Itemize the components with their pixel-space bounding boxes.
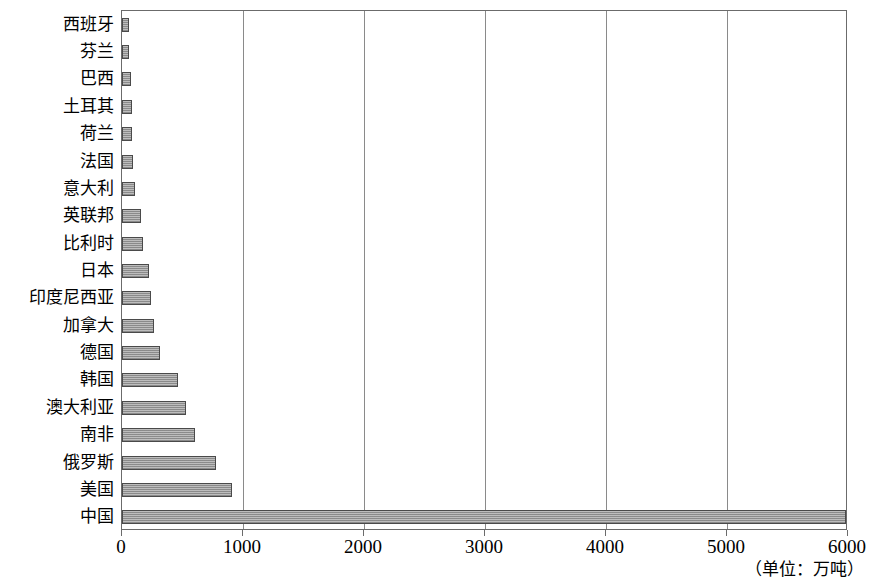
x-tick-label-2000: 2000 — [344, 536, 382, 558]
gridline-1000 — [243, 11, 244, 529]
bar-加拿大 — [122, 319, 154, 333]
category-label-南非: 南非 — [80, 426, 114, 443]
category-label-西班牙: 西班牙 — [63, 15, 114, 32]
x-tick-label-6000: 6000 — [828, 536, 866, 558]
gridline-3000 — [485, 11, 486, 529]
bar-芬兰 — [122, 45, 129, 59]
category-label-加拿大: 加拿大 — [63, 316, 114, 333]
category-label-德国: 德国 — [80, 344, 114, 361]
gridline-4000 — [606, 11, 607, 529]
gridline-2000 — [364, 11, 365, 529]
bar-荷兰 — [122, 127, 132, 141]
plot-area — [121, 10, 847, 530]
category-label-荷兰: 荷兰 — [80, 125, 114, 142]
category-label-法国: 法国 — [80, 152, 114, 169]
category-label-澳大利亚: 澳大利亚 — [46, 398, 114, 415]
category-label-芬兰: 芬兰 — [80, 43, 114, 60]
category-label-巴西: 巴西 — [80, 70, 114, 87]
category-label-日本: 日本 — [80, 262, 114, 279]
bar-中国 — [122, 510, 846, 524]
bar-巴西 — [122, 72, 131, 86]
bar-德国 — [122, 346, 160, 360]
bar-法国 — [122, 155, 133, 169]
bar-chart: 西班牙芬兰巴西土耳其荷兰法国意大利英联邦比利时日本印度尼西亚加拿大德国韩国澳大利… — [0, 0, 872, 584]
bar-英联邦 — [122, 209, 141, 223]
gridline-5000 — [727, 11, 728, 529]
category-label-意大利: 意大利 — [63, 179, 114, 196]
category-label-美国: 美国 — [80, 480, 114, 497]
x-tick-label-3000: 3000 — [465, 536, 503, 558]
category-label-韩国: 韩国 — [80, 371, 114, 388]
bar-南非 — [122, 428, 195, 442]
category-label-印度尼西亚: 印度尼西亚 — [29, 289, 114, 306]
category-label-英联邦: 英联邦 — [63, 207, 114, 224]
x-tick-label-4000: 4000 — [586, 536, 624, 558]
bar-俄罗斯 — [122, 456, 216, 470]
bar-韩国 — [122, 373, 178, 387]
bar-澳大利亚 — [122, 401, 186, 415]
x-tick-label-5000: 5000 — [707, 536, 745, 558]
unit-annotation: （单位：万吨） — [745, 560, 864, 580]
bar-意大利 — [122, 182, 135, 196]
x-tick-label-0: 0 — [116, 536, 126, 558]
category-label-比利时: 比利时 — [63, 234, 114, 251]
bar-日本 — [122, 264, 149, 278]
category-label-中国: 中国 — [80, 508, 114, 525]
bar-印度尼西亚 — [122, 291, 151, 305]
bar-比利时 — [122, 237, 143, 251]
x-tick-label-1000: 1000 — [223, 536, 261, 558]
category-label-俄罗斯: 俄罗斯 — [63, 453, 114, 470]
bar-土耳其 — [122, 100, 132, 114]
category-label-土耳其: 土耳其 — [63, 97, 114, 114]
bar-西班牙 — [122, 18, 129, 32]
bar-美国 — [122, 483, 232, 497]
